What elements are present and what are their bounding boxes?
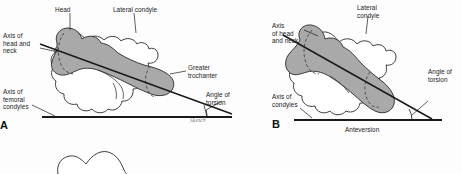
panel-a-letter: A — [0, 119, 8, 131]
panel-a-label-axis-head-neck: Axis of head and neck — [3, 32, 30, 55]
femoral-torsion-figure — [0, 0, 462, 174]
panel-a-label-axis-femoral-condyles: Axis of femoral condyles — [3, 88, 29, 111]
panel-a-label-lateral-condyle: Lateral condyle — [113, 6, 157, 14]
panel-b-label-axis-head-neck: Axis of head and neck — [272, 22, 298, 45]
panel-b-leader-axis-condyles — [300, 108, 312, 118]
artist-signature: Sketch — [190, 117, 206, 124]
panel-a-label-head: Head — [55, 6, 70, 14]
panel-b-letter: B — [272, 118, 280, 130]
bottom-partial-figure — [58, 152, 127, 174]
panel-a-label-greater-trochanter: Greater trochanter — [188, 64, 217, 79]
panel-b-label-lateral-condyle: Lateral condyle — [357, 4, 379, 19]
panel-b-label-angle-of-torsion: Angle of torsion — [428, 68, 452, 83]
panel-b-angle-arc — [409, 109, 412, 120]
panel-a-leader-greater-trochanter — [170, 71, 186, 74]
panel-a-label-angle-of-torsion: Angle of torsion — [206, 91, 230, 106]
panel-a-leader-axis-condyles — [32, 105, 55, 116]
panel-b-illustration — [283, 16, 442, 120]
panel-b-label-axis-condyles: Axis of condyles — [272, 93, 298, 108]
panel-b-caption-anteversion: Anteversion — [345, 126, 379, 134]
panel-a-leader-lateral-condyle — [134, 13, 136, 33]
